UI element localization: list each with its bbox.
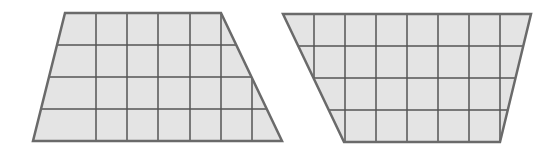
trapezoid-grid-diagram (0, 0, 550, 148)
right-trapezoid (0, 0, 550, 148)
